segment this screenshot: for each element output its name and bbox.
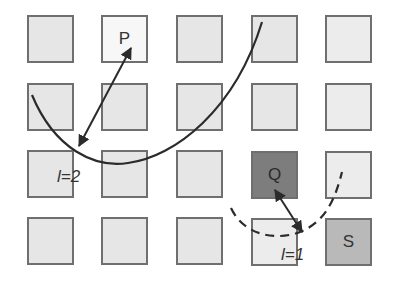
label-l1: l=1 <box>281 245 304 265</box>
connector-layer <box>0 0 399 287</box>
solid-curve <box>32 22 262 164</box>
arrow-p-to-curve <box>79 48 131 146</box>
diagram-canvas: P Q S l=2 l=1 <box>0 0 399 287</box>
dashed-curve <box>231 172 342 236</box>
label-l2: l=2 <box>57 167 80 187</box>
arrow-q-to-dashed-curve <box>275 190 302 232</box>
